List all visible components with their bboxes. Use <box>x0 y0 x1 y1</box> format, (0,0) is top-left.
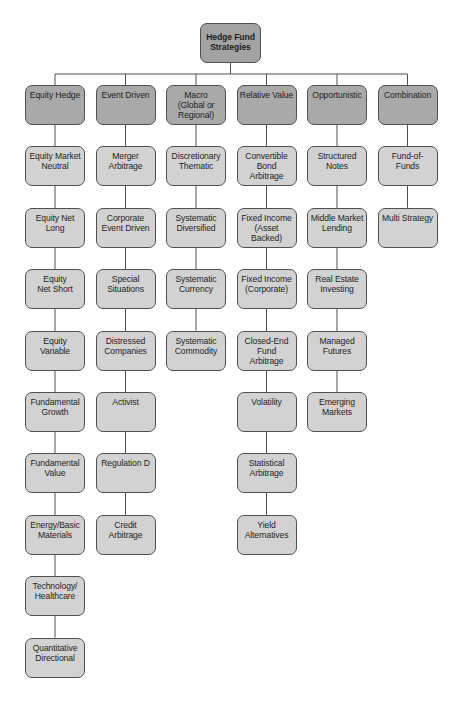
strategy-middle-market-lending: Middle Market Lending <box>307 208 367 248</box>
strategy-label: Multi Strategy <box>381 213 435 223</box>
strategy-corporate-event-driven: Corporate Event Driven <box>96 208 156 248</box>
strategy-equity-market-neutral: Equity Market Neutral <box>25 146 85 186</box>
root-node-label: Hedge Fund Strategies <box>203 32 258 52</box>
category-relative-value: Relative Value <box>237 85 297 125</box>
strategy-label: Equity Net Short <box>28 274 82 294</box>
strategy-label: Fixed Income (Asset Backed) <box>240 213 294 243</box>
strategy-credit-arbitrage: Credit Arbitrage <box>96 515 156 555</box>
strategy-volatility: Volatility <box>237 392 297 432</box>
strategy-label: Middle Market Lending <box>310 213 364 233</box>
strategy-label: Fundamental Value <box>28 458 82 478</box>
strategy-systematic-diversified: Systematic Diversified <box>166 208 226 248</box>
strategy-label: Emerging Markets <box>310 397 364 417</box>
strategy-structured-notes: Structured Notes <box>307 146 367 186</box>
strategy-technology-healthcare: Technology/ Healthcare <box>25 576 85 616</box>
strategy-label: Merger Arbitrage <box>99 151 153 171</box>
strategy-merger-arbitrage: Merger Arbitrage <box>96 146 156 186</box>
strategy-label: Quantitative Directional <box>28 643 82 663</box>
strategy-systematic-currency: Systematic Currency <box>166 269 226 309</box>
strategy-real-estate-investing: Real Estate Investing <box>307 269 367 309</box>
strategy-equity-net-long: Equity Net Long <box>25 208 85 248</box>
strategy-label: Statistical Arbitrage <box>240 458 294 478</box>
category-label: Macro (Global or Regional) <box>169 90 223 120</box>
strategy-fundamental-growth: Fundamental Growth <box>25 392 85 432</box>
strategy-distressed-companies: Distressed Companies <box>96 331 156 371</box>
strategy-discretionary-thematic: Discretionary Thematic <box>166 146 226 186</box>
root-node-hedge-fund-strategies: Hedge Fund Strategies <box>200 23 261 63</box>
strategy-multi-strategy: Multi Strategy <box>378 208 438 248</box>
strategy-fixed-income-asset-backed: Fixed Income (Asset Backed) <box>237 208 297 248</box>
category-label: Relative Value <box>240 90 294 100</box>
strategy-closed-end-fund-arbitrage: Closed-End Fund Arbitrage <box>237 331 297 371</box>
strategy-label: Volatility <box>240 397 294 407</box>
strategy-label: Fund-of-Funds <box>381 151 435 171</box>
strategy-label: Yield Alternatives <box>240 520 294 540</box>
strategy-label: Fixed Income (Corporate) <box>240 274 294 294</box>
strategy-statistical-arbitrage: Statistical Arbitrage <box>237 453 297 493</box>
strategy-managed-futures: Managed Futures <box>307 331 367 371</box>
strategy-label: Real Estate Investing <box>310 274 364 294</box>
category-label: Event Driven <box>99 90 153 100</box>
strategy-label: Activist <box>99 397 153 407</box>
category-label: Equity Hedge <box>28 90 82 100</box>
category-label: Opportunistic <box>310 90 364 100</box>
strategy-label: Discretionary Thematic <box>169 151 223 171</box>
strategy-label: Structured Notes <box>310 151 364 171</box>
strategy-label: Special Situations <box>99 274 153 294</box>
strategy-label: Credit Arbitrage <box>99 520 153 540</box>
strategy-convertible-bond-arbitrage: Convertible Bond Arbitrage <box>237 146 297 186</box>
strategy-label: Fundamental Growth <box>28 397 82 417</box>
strategy-label: Systematic Diversified <box>169 213 223 233</box>
strategy-label: Distressed Companies <box>99 336 153 356</box>
strategy-label: Equity Variable <box>28 336 82 356</box>
strategy-quantitative-directional: Quantitative Directional <box>25 638 85 678</box>
strategy-emerging-markets: Emerging Markets <box>307 392 367 432</box>
strategy-label: Regulation D <box>99 458 153 468</box>
strategy-label: Managed Futures <box>310 336 364 356</box>
strategy-label: Systematic Currency <box>169 274 223 294</box>
strategy-fixed-income-corporate: Fixed Income (Corporate) <box>237 269 297 309</box>
strategy-label: Corporate Event Driven <box>99 213 153 233</box>
category-label: Combination <box>381 90 435 100</box>
category-combination: Combination <box>378 85 438 125</box>
hedge-fund-strategy-tree: Hedge Fund Strategies Equity Hedge Equit… <box>0 0 458 702</box>
strategy-label: Energy/Basic Materials <box>28 520 82 540</box>
strategy-label: Closed-End Fund Arbitrage <box>240 336 294 366</box>
category-opportunistic: Opportunistic <box>307 85 367 125</box>
strategy-label: Equity Market Neutral <box>28 151 82 171</box>
strategy-special-situations: Special Situations <box>96 269 156 309</box>
category-macro: Macro (Global or Regional) <box>166 85 226 125</box>
strategy-fundamental-value: Fundamental Value <box>25 453 85 493</box>
strategy-activist: Activist <box>96 392 156 432</box>
strategy-systematic-commodity: Systematic Commodity <box>166 331 226 371</box>
strategy-label: Technology/ Healthcare <box>28 581 82 601</box>
strategy-energy-basic-materials: Energy/Basic Materials <box>25 515 85 555</box>
strategy-equity-net-short: Equity Net Short <box>25 269 85 309</box>
strategy-label: Systematic Commodity <box>169 336 223 356</box>
strategy-label: Equity Net Long <box>28 213 82 233</box>
strategy-fund-of-funds: Fund-of-Funds <box>378 146 438 186</box>
category-event-driven: Event Driven <box>96 85 156 125</box>
strategy-label: Convertible Bond Arbitrage <box>240 151 294 181</box>
strategy-regulation-d: Regulation D <box>96 453 156 493</box>
strategy-equity-variable: Equity Variable <box>25 331 85 371</box>
strategy-yield-alternatives: Yield Alternatives <box>237 515 297 555</box>
category-equity-hedge: Equity Hedge <box>25 85 85 125</box>
